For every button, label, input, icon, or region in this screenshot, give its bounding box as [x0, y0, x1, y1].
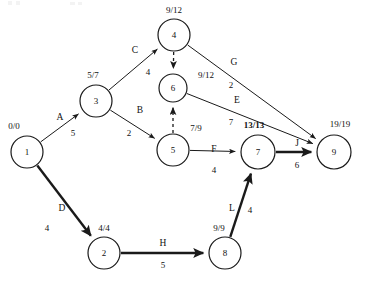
node-time-1: 0/0 — [8, 121, 20, 131]
node-5[interactable]: 57/9 — [157, 123, 202, 166]
edge-weight-G: 2 — [229, 80, 234, 90]
edge-label-A: A — [57, 112, 64, 122]
node-3[interactable]: 35/7 — [80, 70, 112, 117]
node-time-9: 19/19 — [330, 119, 351, 129]
network-diagram-svg: A5B2C4D4E7F4G2H5J6L4 10/024/435/749/1257… — [0, 0, 365, 291]
node-time-2: 4/4 — [98, 223, 110, 233]
scan-artifact — [8, 1, 12, 5]
scan-artifact — [78, 2, 82, 5]
edge-weight-B: 2 — [127, 128, 132, 138]
node-time-5: 7/9 — [190, 123, 202, 133]
edge-label-E: E — [234, 95, 240, 105]
node-9[interactable]: 919/19 — [317, 119, 351, 169]
nodes-layer: 10/024/435/749/1257/969/12713/1389/9919/… — [8, 5, 351, 269]
node-6[interactable]: 69/12 — [159, 70, 214, 102]
node-id-3: 3 — [94, 96, 99, 106]
edge-weight-J: 6 — [295, 160, 300, 170]
network-diagram-canvas: A5B2C4D4E7F4G2H5J6L4 10/024/435/749/1257… — [0, 0, 365, 291]
node-4[interactable]: 49/12 — [158, 5, 190, 51]
scan-artifact — [70, 2, 75, 5]
node-id-7: 7 — [256, 147, 261, 157]
node-id-1: 1 — [25, 147, 30, 157]
node-2[interactable]: 24/4 — [88, 223, 120, 269]
node-id-9: 9 — [332, 147, 337, 157]
edge-weight-A: 5 — [71, 128, 76, 138]
node-time-4: 9/12 — [166, 5, 182, 15]
edge-weight-C: 4 — [146, 67, 151, 77]
edge-weight-H: 5 — [161, 260, 166, 270]
edge-label-G: G — [231, 57, 238, 67]
node-7[interactable]: 713/13 — [241, 120, 275, 169]
node-id-5: 5 — [171, 145, 176, 155]
edge-label-C: C — [132, 45, 138, 55]
node-8[interactable]: 89/9 — [209, 223, 241, 269]
edge-label-B: B — [137, 105, 143, 115]
edge-weight-L: 4 — [248, 205, 253, 215]
edge-weight-F: 4 — [212, 165, 217, 175]
edge-label-D: D — [59, 203, 66, 213]
node-time-6: 9/12 — [198, 70, 214, 80]
edge-weight-D: 4 — [45, 223, 50, 233]
edge-label-L: L — [229, 203, 235, 213]
node-time-8: 9/9 — [213, 223, 225, 233]
node-time-3: 5/7 — [87, 70, 99, 80]
node-id-4: 4 — [172, 30, 177, 40]
node-id-2: 2 — [102, 248, 107, 258]
edge-label-H: H — [160, 238, 167, 248]
edge-label-J: J — [295, 138, 299, 148]
edge-E — [187, 94, 313, 144]
node-id-6: 6 — [171, 83, 176, 93]
edge-label-F: F — [211, 144, 216, 154]
scan-artifact — [16, 1, 20, 5]
edge-weight-E: 7 — [229, 117, 234, 127]
node-time-7: 13/13 — [244, 120, 265, 130]
node-id-8: 8 — [223, 248, 228, 258]
edge-B — [110, 110, 154, 138]
node-1[interactable]: 10/0 — [8, 121, 43, 168]
